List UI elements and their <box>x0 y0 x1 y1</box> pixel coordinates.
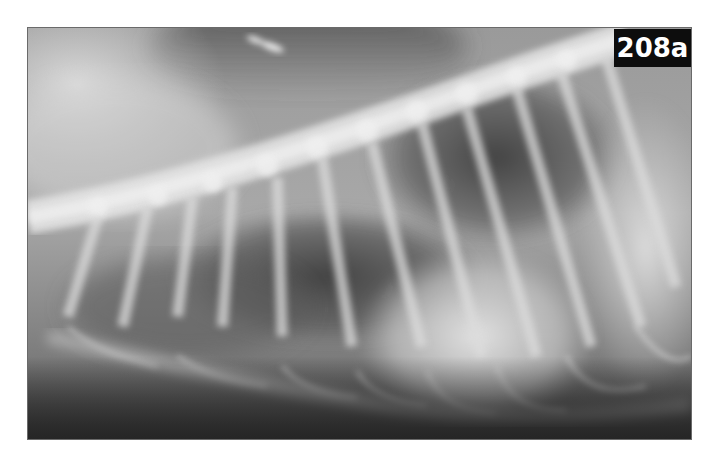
figure-label: 208a <box>617 35 689 61</box>
figure-label-badge: 208a <box>614 29 691 67</box>
radiograph-image <box>28 28 691 439</box>
radiograph-figure: 208a <box>27 27 692 440</box>
